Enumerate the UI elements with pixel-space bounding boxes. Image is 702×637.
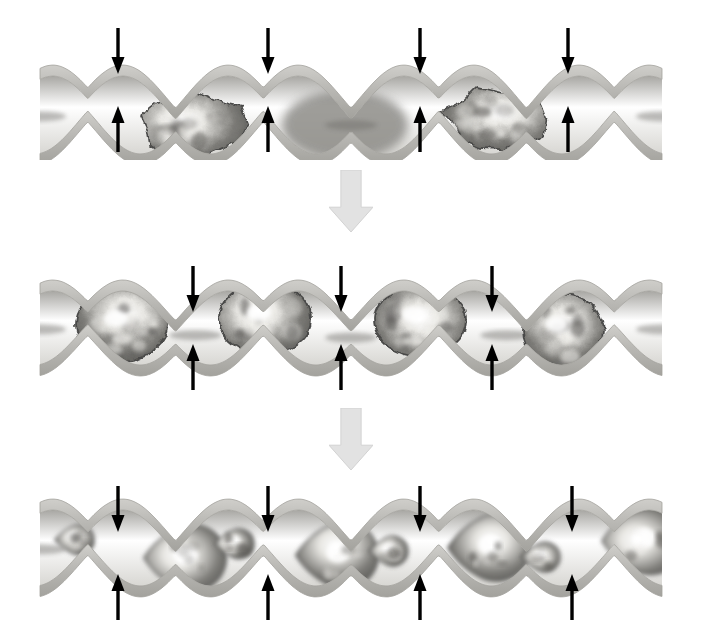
- particulate-mass: [219, 282, 311, 354]
- stage-1-illustration: [0, 20, 702, 160]
- transition-2: [0, 408, 702, 470]
- pinch-shadow: [325, 120, 377, 130]
- pinch-shadow: [636, 111, 688, 121]
- pinch-shadow: [636, 324, 688, 334]
- pinch-shadow: [14, 544, 66, 554]
- pinch-shadow: [14, 111, 66, 121]
- stage-1-row: [0, 20, 702, 160]
- pinch-shadow: [325, 333, 377, 343]
- stage-2-row: [0, 258, 702, 398]
- pinch-shadow: [14, 324, 66, 334]
- figure-canvas: Three-stage schematic of particulate mas…: [0, 0, 702, 637]
- stage-3-illustration: [0, 478, 702, 628]
- stage-3-row: [0, 478, 702, 628]
- transition-arrow-down-icon: [329, 408, 373, 470]
- transition-arrow-down-icon: [329, 170, 373, 232]
- particulate-mass: [602, 508, 684, 575]
- transition-1: [0, 170, 702, 232]
- pinch-shadow: [170, 330, 222, 340]
- compression-arrow-up-icon: [262, 574, 275, 620]
- compression-arrow-down-icon: [262, 28, 275, 74]
- stage-2-illustration: [0, 258, 702, 398]
- compression-arrow-down-icon: [414, 28, 427, 74]
